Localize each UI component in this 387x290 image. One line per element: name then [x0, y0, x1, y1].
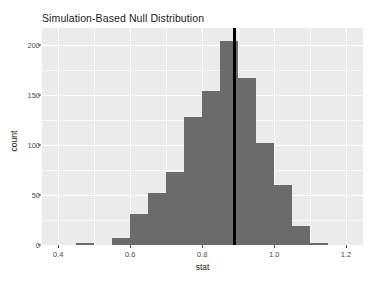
x-tick-mark — [58, 245, 59, 248]
x-tick-mark — [202, 245, 203, 248]
gridline-major-x — [130, 28, 131, 245]
x-tick-mark — [130, 245, 131, 248]
chart-container: Simulation-Based Null Distribution stat … — [0, 0, 387, 290]
x-tick-label: 0.4 — [53, 250, 63, 259]
x-tick-label: 1.2 — [341, 250, 351, 259]
y-tick-mark — [38, 145, 41, 146]
histogram-bar — [76, 243, 94, 245]
y-tick-mark — [38, 95, 41, 96]
x-tick-mark — [274, 245, 275, 248]
histogram-bar — [166, 172, 184, 245]
histogram-bar — [292, 226, 310, 245]
y-axis-title: count — [9, 111, 19, 171]
histogram-bar — [310, 243, 328, 245]
histogram-bar — [130, 214, 148, 245]
histogram-bar — [202, 91, 220, 245]
histogram-bar — [256, 143, 274, 245]
histogram-bar — [148, 193, 166, 245]
gridline-major-x — [346, 28, 347, 245]
histogram-bar — [112, 238, 130, 245]
chart-title: Simulation-Based Null Distribution — [42, 12, 204, 24]
y-tick-mark — [38, 45, 41, 46]
x-tick-label: 0.8 — [197, 250, 207, 259]
gridline-minor-x — [310, 28, 311, 245]
histogram-bar — [274, 185, 292, 245]
histogram-bar — [184, 117, 202, 245]
y-tick-mark — [38, 245, 41, 246]
x-tick-mark — [346, 245, 347, 248]
plot-panel — [42, 28, 363, 245]
observed-statistic-line — [233, 28, 235, 245]
y-tick-mark — [38, 195, 41, 196]
x-tick-label: 1.0 — [269, 250, 279, 259]
x-axis-title: stat — [42, 262, 363, 272]
gridline-minor-x — [94, 28, 95, 245]
histogram-bar — [238, 78, 256, 245]
gridline-major-x — [58, 28, 59, 245]
x-tick-label: 0.6 — [125, 250, 135, 259]
